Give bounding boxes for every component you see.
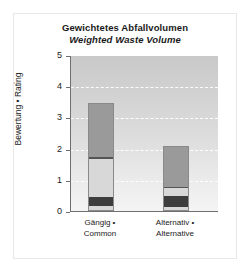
bar-alternative[interactable] — [163, 146, 189, 212]
chart-title-german: Gewichtetes Abfallvolumen — [0, 22, 250, 34]
chart-title: Gewichtetes Abfallvolumen Weighted Waste… — [0, 22, 250, 46]
bar-common-segment-light — [88, 159, 114, 197]
y-ticklabel-3: 3 — [44, 113, 62, 122]
bar-alternative-segment-medium — [163, 146, 189, 187]
bar-common-segment-divider — [88, 157, 114, 159]
y-ticklabel-2: 2 — [44, 145, 62, 154]
category-label-alternative-line2: Alternative — [127, 229, 223, 240]
bar-common-segment-medium — [88, 103, 114, 157]
bar-common[interactable] — [88, 103, 114, 211]
category-label-alternative-line1: Alternativ • — [127, 218, 223, 229]
category-label-alternative: Alternativ • Alternative — [127, 218, 223, 239]
y-ticklabel-0: 0 — [44, 207, 62, 216]
y-axis-label-text: Bewertung • Rating — [13, 73, 23, 146]
y-ticklabel-1: 1 — [44, 176, 62, 185]
y-axis-label: Bewertung • Rating — [13, 54, 23, 164]
bar-alternative-segment-light — [163, 188, 189, 196]
bar-common-segment-dark — [88, 197, 114, 206]
bar-alternative-segment-dark — [163, 196, 189, 207]
bar-alternative-segment-base-light — [163, 207, 189, 211]
chart-title-english: Weighted Waste Volume — [0, 34, 250, 46]
y-tick-0 — [66, 212, 70, 213]
bar-common-segment-base-light — [88, 206, 114, 211]
y-ticklabel-4: 4 — [44, 82, 62, 91]
gridline-4 — [71, 87, 218, 88]
bar-alternative-segment-divider — [163, 187, 189, 189]
chart-figure: Gewichtetes Abfallvolumen Weighted Waste… — [0, 0, 250, 272]
y-ticklabel-5: 5 — [44, 51, 62, 60]
plot-area — [70, 56, 218, 212]
